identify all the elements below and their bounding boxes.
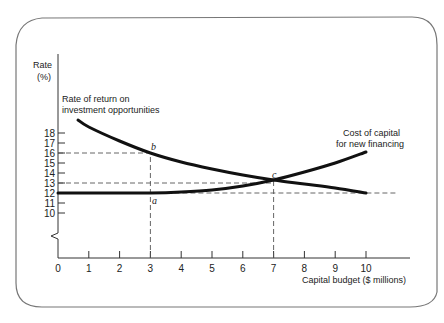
point-label-b: b <box>151 141 156 152</box>
curves <box>58 120 366 193</box>
y-tick-label: 11 <box>45 198 56 209</box>
series-label-cost-of-capital-1: Cost of capital <box>343 128 400 138</box>
x-tick-label: 4 <box>178 263 184 274</box>
series-label-rate-of-return-2: investment opportunities <box>62 105 160 115</box>
y-axis-label-line1: Rate <box>33 60 52 70</box>
y-tick-label: 15 <box>44 158 56 169</box>
x-tick-label: 0 <box>55 263 61 274</box>
y-tick-label: 13 <box>44 178 56 189</box>
y-axis-break <box>51 222 58 258</box>
x-tick-label: 3 <box>148 263 154 274</box>
x-tick-label: 2 <box>117 263 123 274</box>
y-tick-label: 16 <box>44 148 56 159</box>
series-label-cost-of-capital-2: for new financing <box>336 139 404 149</box>
chart: 012345678910 101112131415161718 Rate (%)… <box>0 0 444 323</box>
y-axis-label-line2: (%) <box>37 72 51 82</box>
series-label-rate-of-return-1: Rate of return on <box>62 94 130 104</box>
x-tick-label: 1 <box>86 263 92 274</box>
reference-lines <box>58 153 397 258</box>
x-tick-label: 5 <box>209 263 215 274</box>
x-tick-label: 9 <box>332 263 338 274</box>
chart-frame <box>16 17 437 307</box>
y-tick-label: 18 <box>44 128 56 139</box>
x-tick-label: 8 <box>302 263 308 274</box>
y-tick-label: 14 <box>44 168 56 179</box>
curve-rate-of-return <box>78 120 366 193</box>
x-ticks: 012345678910 <box>55 251 372 274</box>
point-label-a: a <box>152 195 157 206</box>
y-tick-label: 17 <box>44 138 56 149</box>
y-tick-label: 10 <box>44 208 56 219</box>
x-axis-label: Capital budget ($ millions) <box>302 275 406 285</box>
point-label-c: c <box>272 169 277 180</box>
y-ticks: 101112131415161718 <box>44 128 65 219</box>
y-tick-label: 12 <box>44 188 56 199</box>
x-tick-label: 7 <box>271 263 277 274</box>
x-tick-label: 10 <box>360 263 372 274</box>
x-tick-label: 6 <box>240 263 246 274</box>
